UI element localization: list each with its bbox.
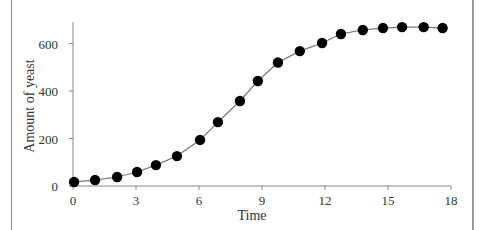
yeast-growth-chart: 03691215180200400600 Time Amount of yeas… xyxy=(0,0,487,230)
data-point xyxy=(397,22,407,32)
data-points xyxy=(69,22,448,187)
data-point xyxy=(253,76,263,86)
data-point xyxy=(172,151,182,161)
y-tick-label: 400 xyxy=(39,84,59,99)
data-point xyxy=(295,46,305,56)
data-point xyxy=(419,22,429,32)
y-axis-title: Amount of yeast xyxy=(22,59,37,152)
x-tick-label: 6 xyxy=(196,193,203,208)
data-point xyxy=(378,23,388,33)
y-tick-label: 0 xyxy=(52,179,59,194)
data-point xyxy=(132,167,142,177)
data-point xyxy=(151,160,161,170)
data-point xyxy=(437,23,447,33)
data-point xyxy=(358,25,368,35)
x-tick-label: 18 xyxy=(445,193,458,208)
data-line xyxy=(74,27,443,182)
data-point xyxy=(317,38,327,48)
data-point xyxy=(213,117,223,127)
data-point xyxy=(273,57,283,67)
series-line xyxy=(74,27,443,182)
data-point xyxy=(112,172,122,182)
x-tick-label: 0 xyxy=(70,193,77,208)
x-tick-label: 3 xyxy=(133,193,140,208)
data-point xyxy=(69,177,79,187)
axes: 03691215180200400600 xyxy=(39,22,458,208)
x-tick-label: 12 xyxy=(319,193,332,208)
data-point xyxy=(336,29,346,39)
y-tick-label: 600 xyxy=(39,37,59,52)
data-point xyxy=(235,96,245,106)
x-axis-title: Time xyxy=(237,208,266,223)
y-tick-label: 200 xyxy=(39,132,59,147)
x-tick-label: 9 xyxy=(259,193,266,208)
data-point xyxy=(195,135,205,145)
x-tick-label: 15 xyxy=(382,193,395,208)
data-point xyxy=(90,175,100,185)
